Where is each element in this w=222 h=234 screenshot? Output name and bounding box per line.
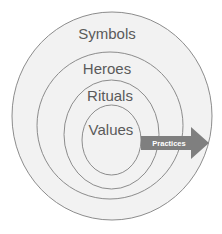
onion-diagram: Symbols Heroes Rituals Values Practices bbox=[0, 0, 222, 234]
label-values: Values bbox=[89, 121, 134, 138]
label-rituals: Rituals bbox=[87, 87, 133, 104]
layer-values-circle bbox=[82, 105, 141, 175]
label-heroes: Heroes bbox=[83, 60, 131, 77]
label-symbols: Symbols bbox=[78, 25, 136, 42]
label-practices: Practices bbox=[152, 139, 185, 148]
